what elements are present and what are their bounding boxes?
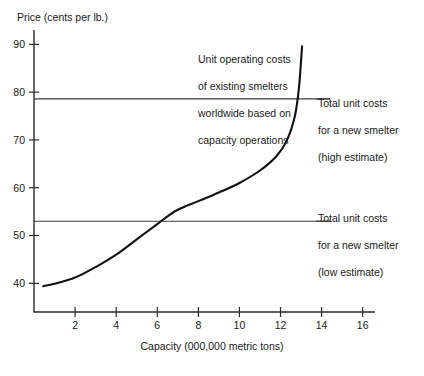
y-tick-label: 50 [13,229,25,241]
low-estimate-line-2: for a new smelter [318,239,422,252]
x-tick-label: 12 [275,319,287,331]
x-tick-label: 16 [357,319,369,331]
x-tick-label: 10 [234,319,246,331]
curve-annotation-line-4: capacity operations [198,134,324,147]
y-tick-label: 80 [13,86,25,98]
high-estimate-annotation: Total unit costs for a new smelter (high… [318,84,422,178]
y-tick-label: 90 [13,38,25,50]
chart-container: 405060708090246810121416 Price (cents pe… [0,0,424,376]
x-tick-label: 14 [316,319,328,331]
x-tick-label: 6 [154,319,160,331]
high-estimate-line-2: for a new smelter [318,124,422,137]
curve-annotation: Unit operating costs of existing smelter… [198,40,324,161]
curve-annotation-line-2: of existing smelters [198,80,324,93]
y-tick-label: 70 [13,134,25,146]
x-tick-label: 2 [72,319,78,331]
y-tick-label: 40 [13,277,25,289]
x-tick-label: 4 [113,319,119,331]
x-axis-title: Capacity (000,000 metric tons) [0,340,424,353]
low-estimate-line-1: Total unit costs [318,212,422,225]
curve-annotation-line-3: worldwide based on [198,107,324,120]
high-estimate-line-3: (high estimate) [318,151,422,164]
low-estimate-annotation: Total unit costs for a new smelter (low … [318,199,422,293]
low-estimate-line-3: (low estimate) [318,266,422,279]
curve-annotation-line-1: Unit operating costs [198,53,324,66]
y-axis-title: Price (cents per lb.) [17,11,108,24]
high-estimate-line-1: Total unit costs [318,97,422,110]
y-tick-label: 60 [13,182,25,194]
x-tick-label: 8 [195,319,201,331]
